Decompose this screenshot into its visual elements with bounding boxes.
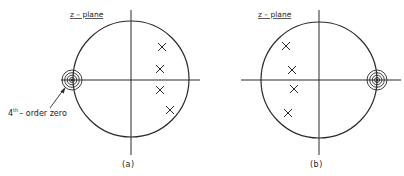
caption-a: (a) <box>122 160 135 169</box>
panel-a-title: z – plane <box>70 10 104 19</box>
pole-x-icon <box>158 43 166 51</box>
pole-x-icon <box>156 65 164 73</box>
fourth-order-zero-a <box>62 70 82 90</box>
panel-a: z – plane 4th– order zero (a) <box>8 10 200 169</box>
panel-b: z – plane (b) <box>241 10 401 169</box>
pole-x-icon <box>156 86 164 94</box>
zero-annotation: 4th– order zero <box>8 107 67 118</box>
arrow-icon <box>50 87 66 108</box>
pole-x-icon <box>284 109 292 117</box>
pole-x-icon <box>282 42 290 50</box>
poles-a <box>156 43 174 114</box>
panel-b-title: z – plane <box>258 10 292 19</box>
pole-x-icon <box>166 106 174 114</box>
pole-x-icon <box>290 85 298 93</box>
fourth-order-zero-b <box>367 70 387 90</box>
pole-x-icon <box>288 66 296 74</box>
pole-zero-diagram: z – plane 4th– order zero (a) z – plane <box>0 0 404 176</box>
caption-b: (b) <box>310 160 323 169</box>
